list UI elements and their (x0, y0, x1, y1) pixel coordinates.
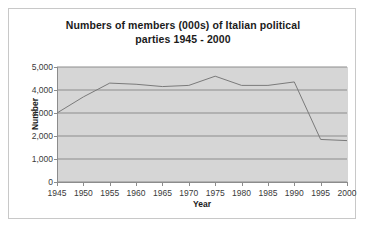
y-axis-tick-label: 5,000 (32, 62, 53, 72)
chart-card: Numbers of members (000s) of Italian pol… (8, 8, 356, 219)
x-axis-tick (268, 182, 269, 186)
x-axis-tick (242, 182, 243, 186)
y-axis-tick-label: 3,000 (32, 108, 53, 118)
y-axis-tick (54, 159, 57, 160)
x-axis-title: Year (57, 199, 347, 209)
x-axis-tick-label: 1970 (179, 188, 198, 198)
x-axis-tick-label: 1990 (285, 188, 304, 198)
chart-title: Numbers of members (000s) of Italian pol… (9, 18, 357, 46)
plot-wrapper: 01,0002,0003,0004,0005,000 1945195019551… (57, 67, 347, 182)
data-series-line (57, 76, 347, 140)
x-axis-tick-label: 1955 (100, 188, 119, 198)
gridlines (57, 67, 347, 182)
x-axis-tick (136, 182, 137, 186)
x-axis-tick (83, 182, 84, 186)
x-axis-tick-label: 1945 (48, 188, 67, 198)
y-axis-tick (54, 67, 57, 68)
x-axis-tick-label: 1980 (232, 188, 251, 198)
x-axis-tick (57, 182, 58, 186)
x-axis-tick (294, 182, 295, 186)
x-axis-tick-label: 2000 (338, 188, 357, 198)
y-axis-tick-label: 0 (48, 177, 53, 187)
y-axis-tick-label: 4,000 (32, 85, 53, 95)
x-axis-tick (321, 182, 322, 186)
x-axis-tick (110, 182, 111, 186)
y-axis-tick (54, 90, 57, 91)
x-axis-tick (347, 182, 348, 186)
x-axis-tick-label: 1965 (153, 188, 172, 198)
plot-svg (57, 67, 347, 182)
y-axis-tick-label: 1,000 (32, 154, 53, 164)
y-axis-tick (54, 136, 57, 137)
x-axis-tick-label: 1985 (258, 188, 277, 198)
x-axis-tick-label: 1950 (74, 188, 93, 198)
y-axis-tick-label: 2,000 (32, 131, 53, 141)
x-axis-tick-label: 1960 (127, 188, 146, 198)
x-axis-tick-label: 1975 (206, 188, 225, 198)
x-axis-tick-label: 1995 (311, 188, 330, 198)
x-axis-tick (189, 182, 190, 186)
x-axis-tick (215, 182, 216, 186)
y-axis-tick (54, 113, 57, 114)
x-axis-tick (162, 182, 163, 186)
